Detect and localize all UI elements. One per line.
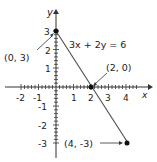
x-axis-arrow-icon <box>148 84 153 90</box>
svg-text:2: 2 <box>45 46 51 56</box>
svg-text:-2: -2 <box>38 121 47 131</box>
arrow-head-icon <box>119 141 123 145</box>
point-label-2-0: (2, 0) <box>106 62 132 73</box>
graph: y x -2 -1 1 2 3 4 3 2 1 -1 -2 -3 3x + 2y… <box>0 0 157 162</box>
svg-text:1: 1 <box>45 64 51 74</box>
x-tick-labels: -2 -1 1 2 3 4 <box>16 93 129 103</box>
equation-label: 3x + 2y = 6 <box>69 39 126 50</box>
point-4-neg3 <box>125 141 130 146</box>
svg-text:1: 1 <box>71 93 77 103</box>
y-axis-label: y <box>46 7 54 18</box>
svg-text:4: 4 <box>123 93 129 103</box>
svg-text:-2: -2 <box>16 93 25 103</box>
arrow-2-0 <box>95 73 107 84</box>
svg-text:3: 3 <box>105 93 111 103</box>
point-0-3 <box>54 29 59 34</box>
svg-text:3: 3 <box>44 27 50 37</box>
point-2-0 <box>89 85 94 90</box>
point-label-0-3: (0, 3) <box>4 52 30 63</box>
arrow-head-icon <box>50 33 54 37</box>
x-axis-label: x <box>141 90 148 100</box>
svg-text:2: 2 <box>88 93 94 103</box>
y-axis-arrow-icon <box>53 9 59 14</box>
point-label-4-neg3: (4, -3) <box>64 138 93 149</box>
svg-text:-1: -1 <box>38 102 47 112</box>
svg-text:-3: -3 <box>38 139 47 149</box>
